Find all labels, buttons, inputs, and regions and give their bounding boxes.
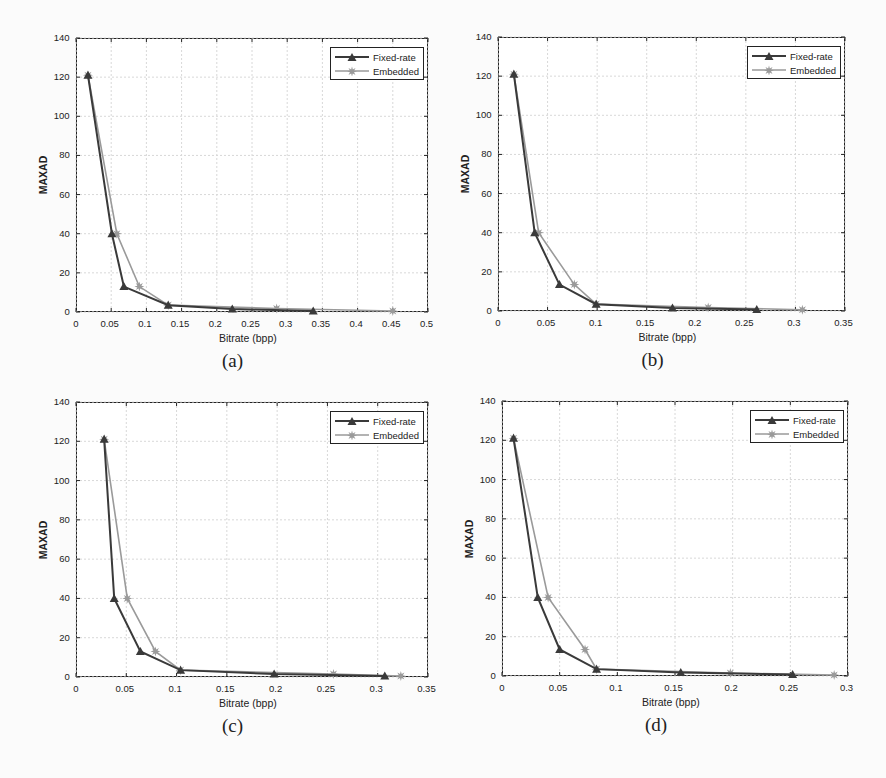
triangle-marker-icon	[755, 415, 789, 425]
x-tick-label: 0	[499, 682, 504, 693]
y-tick-label: 140	[480, 395, 496, 406]
y-tick-label: 60	[485, 552, 496, 563]
legend-entry-fixed-rate: Fixed-rate	[755, 413, 839, 427]
x-tick-label: 0.15	[664, 682, 683, 693]
legend-entry-embedded: Embedded	[755, 427, 839, 441]
legend-label: Embedded	[793, 429, 839, 440]
legend-label: Fixed-rate	[793, 415, 836, 426]
y-tick-label: 20	[485, 631, 496, 642]
x-tick-label: 0.2	[725, 682, 738, 693]
x-tick-label: 0.25	[780, 682, 799, 693]
x-axis-label: Bitrate (bpp)	[642, 696, 700, 708]
star-marker-icon	[755, 429, 789, 439]
y-tick-label: 120	[480, 434, 496, 445]
y-tick-label: 0	[491, 670, 496, 681]
y-tick-label: 80	[485, 513, 496, 524]
y-tick-label: 100	[480, 474, 496, 485]
x-tick-label: 0.3	[840, 682, 853, 693]
chart-legend: Fixed-rateEmbedded	[750, 410, 844, 443]
y-tick-label: 40	[485, 591, 496, 602]
x-tick-label: 0.1	[609, 682, 622, 693]
panel-caption: (d)	[645, 714, 667, 736]
y-axis-label: MAXAD	[463, 519, 475, 558]
x-tick-label: 0.05	[549, 682, 568, 693]
plot-lines	[0, 0, 886, 778]
